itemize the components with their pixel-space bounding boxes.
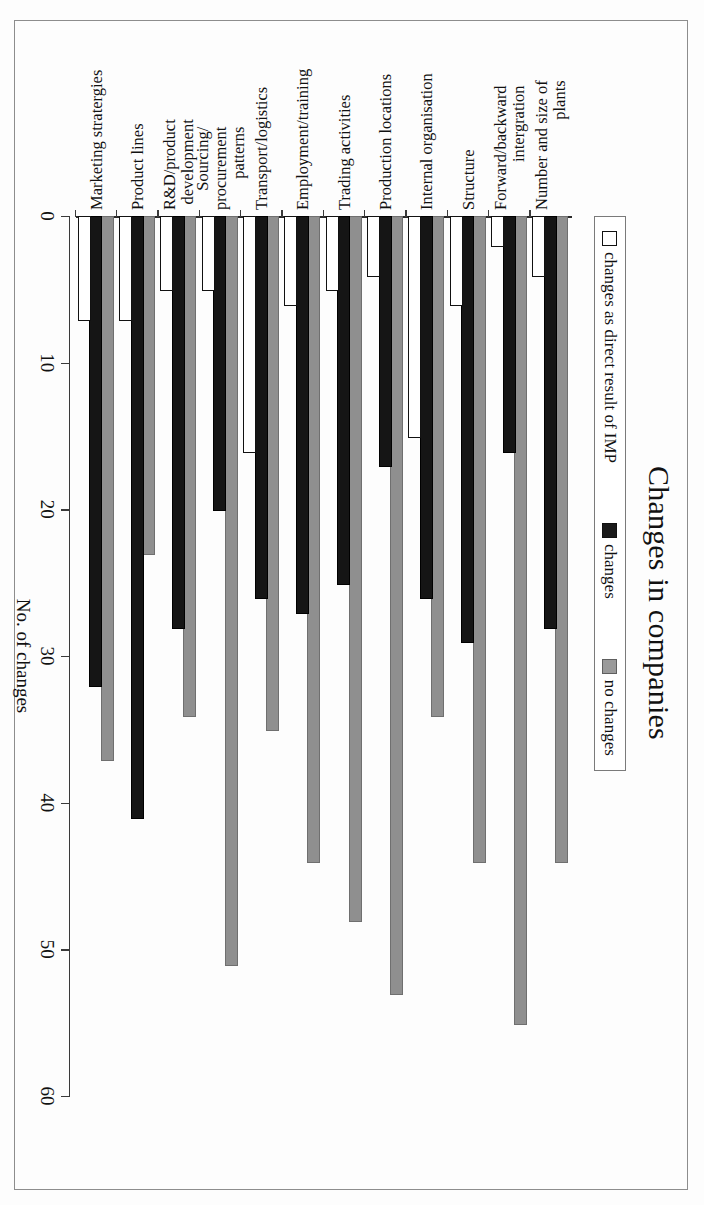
bar-group: Forward/backward intergration: [489, 216, 530, 1096]
bar-changes: [131, 216, 144, 819]
bar-changes: [503, 216, 516, 453]
bar-changes: [255, 216, 268, 599]
bar-no-changes: [183, 216, 196, 717]
bar-group: Employment/training: [283, 216, 324, 1096]
axis-tick-label: 50: [36, 939, 58, 958]
bar-direct-imp: [160, 216, 173, 291]
bar-direct-imp: [532, 216, 545, 277]
category-label: R&D/product development: [162, 119, 198, 210]
bar-changes: [337, 216, 350, 585]
category-label: Marketing stratergies: [88, 69, 106, 209]
bar-changes: [296, 216, 309, 614]
bar-no-changes: [349, 216, 362, 922]
bar-direct-imp: [119, 216, 132, 321]
plot-area: Number and size of plantsForward/backwar…: [76, 216, 572, 1096]
legend-item-changes: changes: [600, 523, 620, 599]
category-label: Trading activities: [336, 94, 354, 209]
bar-group: Trading activities: [324, 216, 365, 1096]
bar-direct-imp: [284, 216, 297, 306]
bar-group: Structure: [448, 216, 489, 1096]
filled-black-square-icon: [603, 523, 618, 538]
chart-legend: changes as direct result of IMP changes …: [594, 216, 626, 771]
axis-tick: [61, 656, 70, 657]
bar-group: Number and size of plants: [531, 216, 572, 1096]
bar-no-changes: [225, 216, 238, 966]
axis-tick: [61, 216, 70, 217]
bar-changes: [172, 216, 185, 629]
axis-tick-label: 60: [36, 1086, 58, 1105]
bar-no-changes: [514, 216, 527, 1025]
category-label: Forward/backward intergration: [492, 85, 528, 210]
axis-tick: [61, 509, 70, 510]
bar-no-changes: [307, 216, 320, 863]
bar-group: Production locations: [365, 216, 406, 1096]
bar-group: Marketing stratergies: [76, 216, 117, 1096]
legend-item-nochanges: no changes: [600, 658, 620, 755]
bar-direct-imp: [243, 216, 256, 453]
category-label: Internal organisation: [418, 73, 436, 210]
bar-no-changes: [431, 216, 444, 717]
category-label: Employment/training: [294, 68, 312, 209]
axis-tick-label: 0: [36, 211, 58, 221]
bar-changes: [461, 216, 474, 643]
bar-changes: [420, 216, 433, 599]
category-tick: [75, 210, 76, 217]
bar-no-changes: [101, 216, 114, 761]
legend-label-nochanges: no changes: [600, 679, 620, 755]
bar-changes: [544, 216, 557, 629]
bar-group: Transport/logistics: [241, 216, 282, 1096]
axis-tick-label: 30: [36, 646, 58, 665]
bar-no-changes: [142, 216, 155, 555]
category-label: Product lines: [129, 123, 147, 210]
category-label: Number and size of plants: [534, 80, 570, 210]
bar-group: R&D/product development: [159, 216, 200, 1096]
bar-direct-imp: [202, 216, 215, 291]
bar-group: Internal organisation: [407, 216, 448, 1096]
legend-label-direct: changes as direct result of IMP: [600, 252, 620, 463]
bar-group: Sourcing/ procurement patterns: [200, 216, 241, 1096]
bar-no-changes: [473, 216, 486, 863]
bar-changes: [213, 216, 226, 511]
bar-no-changes: [555, 216, 568, 863]
category-label: Transport/logistics: [253, 86, 271, 209]
scanned-figure-page: Changes in companies changes as direct r…: [0, 0, 704, 1205]
axis-tick: [61, 1096, 70, 1097]
bar-no-changes: [390, 216, 403, 995]
legend-item-direct: changes as direct result of IMP: [600, 231, 620, 463]
bar-direct-imp: [326, 216, 339, 291]
outline-square-icon: [603, 231, 618, 246]
bar-group: Product lines: [117, 216, 158, 1096]
legend-label-changes: changes: [600, 544, 620, 599]
axis-tick-label: 20: [36, 499, 58, 518]
axis-tick: [61, 362, 70, 363]
category-label: Production locations: [377, 73, 395, 209]
axis-tick-label: 10: [36, 353, 58, 372]
bar-changes: [379, 216, 392, 467]
chart-title: Changes in companies: [642, 28, 676, 1178]
bar-direct-imp: [367, 216, 380, 277]
bar-direct-imp: [491, 216, 504, 247]
axis-tick: [61, 949, 70, 950]
bar-direct-imp: [78, 216, 91, 321]
bar-direct-imp: [450, 216, 463, 306]
category-label: Structure: [460, 149, 478, 209]
rotated-chart-wrapper: Changes in companies changes as direct r…: [0, 0, 704, 1205]
bar-changes: [89, 216, 102, 687]
axis-tick: [61, 802, 70, 803]
category-label: Sourcing/ procurement patterns: [194, 126, 247, 209]
axis-tick-label: 40: [36, 793, 58, 812]
filled-gray-square-icon: [603, 658, 618, 673]
chart-rotation-container: Changes in companies changes as direct r…: [22, 28, 682, 1178]
bar-no-changes: [266, 216, 279, 731]
bar-chart: Changes in companies changes as direct r…: [22, 28, 682, 1178]
axis-title: No. of changes: [12, 216, 34, 1096]
bar-direct-imp: [408, 216, 421, 438]
